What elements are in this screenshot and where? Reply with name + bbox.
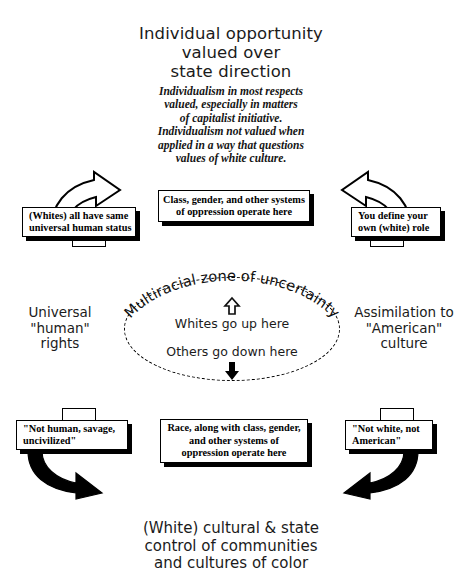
zone-arc-label: Multiracial zone of uncertainty (110, 255, 354, 345)
bottom-caption-line: and cultures of color (91, 555, 371, 573)
top-blurb-line: Individualism in most respects (101, 85, 361, 98)
box-bottom-right-line: American" (352, 435, 432, 447)
top-blurb-line: of capitalist initiative. (101, 112, 361, 125)
box-top-right-line: own (white) role (358, 222, 440, 234)
side-label-left-line: "human" (6, 321, 114, 337)
top-blurb-line: valued, especially in matters (101, 98, 361, 111)
box-bottom-left-line: "Not human, savage, (23, 423, 127, 435)
bottom-caption: (White) cultural & state control of comm… (91, 520, 371, 573)
box-top-center[interactable]: Class, gender, and other systems of oppr… (158, 190, 310, 222)
box-top-right[interactable]: You define your own (white) role (351, 207, 441, 237)
top-blurb-line: Individualism not valued when (101, 125, 361, 138)
box-bottom-center-line: Race, along with class, gender, (161, 422, 307, 434)
page-title-line: Individual opportunity (91, 24, 371, 43)
arrow-down-right-solid-icon (26, 449, 112, 501)
box-top-left-line: (Whites) all have same (29, 210, 135, 222)
box-top-left-line: universal human status (29, 222, 135, 234)
box-bottom-center[interactable]: Race, along with class, gender, and othe… (160, 419, 308, 463)
box-bottom-center-line: and other systems of (161, 435, 307, 447)
box-top-center-line: Class, gender, and other systems (159, 194, 309, 206)
page-title-line: valued over (91, 43, 371, 62)
side-label-left-line: Universal (6, 305, 114, 321)
diagram-canvas: Individual opportunity valued over state… (0, 0, 462, 584)
top-blurb-line: values of white culture. (101, 152, 361, 165)
box-bottom-left-line: uncivilized" (23, 435, 127, 447)
side-label-right-line: Assimilation to (348, 305, 460, 321)
box-top-center-line: of oppression operate here (159, 206, 309, 218)
box-bottom-center-line: oppression operate here (161, 447, 307, 459)
box-top-left[interactable]: (Whites) all have same universal human s… (22, 207, 136, 237)
box-bottom-left[interactable]: "Not human, savage, uncivilized" (16, 420, 128, 450)
side-label-right-line: "American" (348, 321, 460, 337)
top-blurb-line: applied in a way that questions (101, 139, 361, 152)
box-bottom-right-line: "Not white, not (352, 423, 432, 435)
arrow-down-left-solid-icon (334, 449, 420, 501)
page-title: Individual opportunity valued over state… (91, 24, 371, 81)
bottom-caption-line: control of communities (91, 538, 371, 556)
side-label-right-line: culture (348, 336, 460, 352)
side-label-left-line: rights (6, 336, 114, 352)
svg-text:Multiracial zone of uncertaint: Multiracial zone of uncertainty (121, 267, 344, 321)
side-label-right: Assimilation to "American" culture (348, 305, 460, 352)
box-bottom-right[interactable]: "Not white, not American" (345, 420, 433, 450)
page-title-line: state direction (91, 62, 371, 81)
zone-down-label: Others go down here (152, 344, 312, 359)
box-top-right-line: You define your (358, 210, 440, 222)
side-label-left: Universal "human" rights (6, 305, 114, 352)
bottom-caption-line: (White) cultural & state (91, 520, 371, 538)
zone-arc-text: Multiracial zone of uncertainty (121, 267, 344, 321)
top-blurb: Individualism in most respects valued, e… (101, 85, 361, 165)
